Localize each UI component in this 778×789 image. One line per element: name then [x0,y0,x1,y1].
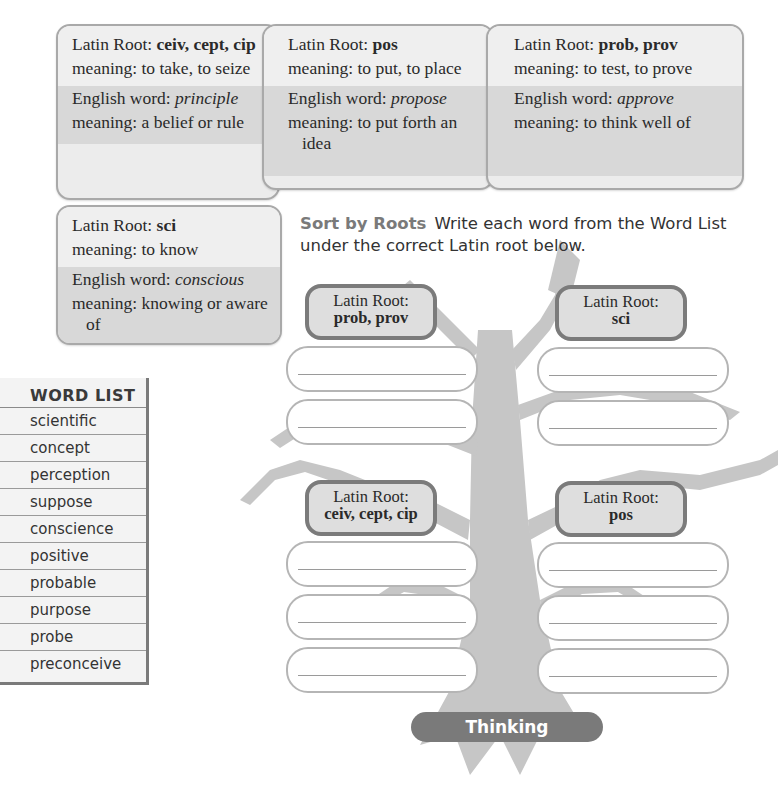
latin-root-label: Latin Root: [514,34,599,54]
english-word-meaning: meaning: knowing or aware of [72,293,270,335]
answer-blank-sci-2[interactable] [537,400,729,446]
write-line [549,428,717,429]
sort-root-pos: Latin Root: pos [555,481,687,537]
sort-root-value: sci [559,310,683,327]
sort-root-label: Latin Root: [309,488,433,505]
word-list-title: WORD LIST [0,378,146,408]
thinking-banner: Thinking [411,712,603,742]
answer-blank-prob-1[interactable] [286,346,478,392]
sort-root-label: Latin Root: [559,293,683,310]
write-line [298,374,466,375]
word-list-item: probable [0,570,146,597]
latin-root-label: Latin Root: [72,215,157,235]
answer-blank-ceiv-1[interactable] [286,541,478,587]
answer-blank-pos-3[interactable] [537,648,729,694]
word-list-item: purpose [0,597,146,624]
word-list: WORD LIST scientific concept perception … [0,378,149,685]
english-word-label: English word: [72,88,175,108]
sort-root-label: Latin Root: [309,292,433,309]
write-line [298,622,466,623]
latin-root-value: ceiv, cept, cip [157,34,256,54]
word-list-item: suppose [0,489,146,516]
latin-root-meaning: meaning: to test, to prove [514,58,732,79]
sort-root-value: pos [559,506,683,523]
write-line [549,570,717,571]
english-word-label: English word: [514,88,617,108]
instructions-lead: Sort by Roots [300,214,426,233]
sort-root-prob: Latin Root: prob, prov [305,284,437,340]
root-card-pos: Latin Root: pos meaning: to put, to plac… [262,24,494,190]
latin-root-label: Latin Root: [72,34,157,54]
latin-root-meaning: meaning: to put, to place [288,58,482,79]
root-card-sci: Latin Root: sci meaning: to know English… [56,205,282,345]
write-line [298,675,466,676]
root-card-ceiv: Latin Root: ceiv, cept, cip meaning: to … [56,24,280,200]
sort-root-ceiv: Latin Root: ceiv, cept, cip [305,480,437,536]
english-word-meaning: meaning: to put forth an idea [288,112,482,154]
english-word-meaning: meaning: to think well of [514,112,732,133]
word-list-item: preconceive [0,651,146,682]
english-word-value: propose [391,88,447,108]
answer-blank-pos-1[interactable] [537,542,729,588]
sort-root-sci: Latin Root: sci [555,285,687,341]
latin-root-label: Latin Root: [288,34,373,54]
answer-blank-ceiv-2[interactable] [286,594,478,640]
instructions: Sort by RootsWrite each word from the Wo… [300,213,770,257]
latin-root-value: prob, prov [599,34,678,54]
english-word-label: English word: [72,269,175,289]
write-line [549,676,717,677]
answer-blank-prob-2[interactable] [286,399,478,445]
english-word-label: English word: [288,88,391,108]
word-list-item: concept [0,435,146,462]
english-word-value: principle [175,88,238,108]
write-line [549,375,717,376]
word-list-item: perception [0,462,146,489]
english-word-value: approve [617,88,674,108]
answer-blank-sci-1[interactable] [537,347,729,393]
word-list-item: positive [0,543,146,570]
english-word-meaning: meaning: a belief or rule [72,112,268,133]
latin-root-meaning: meaning: to know [72,239,270,260]
word-list-item: conscience [0,516,146,543]
latin-root-value: sci [157,215,176,235]
latin-root-meaning: meaning: to take, to seize [72,58,268,79]
root-card-prob: Latin Root: prob, prov meaning: to test,… [486,24,744,190]
answer-blank-pos-2[interactable] [537,595,729,641]
write-line [298,569,466,570]
sort-root-label: Latin Root: [559,489,683,506]
latin-root-value: pos [373,34,398,54]
answer-blank-ceiv-3[interactable] [286,647,478,693]
english-word-value: conscious [175,269,244,289]
sort-root-value: prob, prov [309,309,433,326]
write-line [549,623,717,624]
word-list-item: scientific [0,408,146,435]
sort-root-value: ceiv, cept, cip [309,505,433,522]
write-line [298,427,466,428]
word-list-item: probe [0,624,146,651]
